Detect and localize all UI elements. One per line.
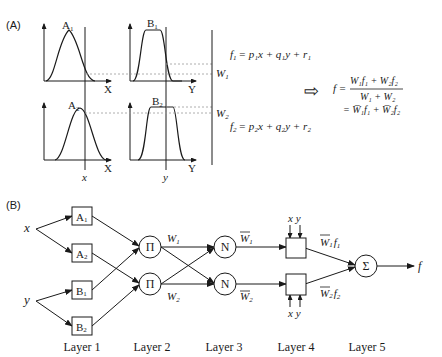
plot-a1-axis-label: X	[104, 83, 112, 95]
rule2-equation: f2= p₂x + q₂y + r₂	[230, 120, 311, 134]
anfis-figure: (A) A1 X B1 Y A2 X B2	[0, 0, 442, 357]
w1-label: W1	[216, 67, 229, 81]
panel-a: (A) A1 X B1 Y A2 X B2	[6, 17, 403, 183]
membership-curve-a1	[46, 30, 95, 81]
w2-label: W2	[216, 107, 229, 121]
output-f: f	[418, 259, 423, 273]
layer1-nodes: A1 A2 B1 B2	[72, 207, 92, 335]
plot-a1	[44, 24, 111, 81]
product-icon: Π	[146, 277, 155, 291]
layer4-top-inputs: x y	[287, 212, 301, 224]
layer-labels: Layer 1 Layer 2 Layer 3 Layer 4 Layer 5	[64, 340, 386, 354]
plot-a1-title: A1	[62, 19, 74, 33]
input-y: y	[22, 292, 30, 307]
implies-arrow-icon: ⇨	[304, 81, 319, 101]
normalize-icon: N	[221, 240, 230, 254]
layer-label-1: Layer 1	[64, 340, 101, 354]
consequent-node-1	[286, 238, 306, 258]
product-icon: Π	[146, 240, 155, 254]
layer3-nodes: N N W1 W2	[214, 232, 253, 304]
input-y-label: y	[162, 171, 168, 183]
plot-b1-axis-label: Y	[188, 83, 196, 95]
output-eq-line2: = W̅₁f₁ + W̅₂f₂	[343, 104, 401, 115]
w1-edge-label: W1	[167, 232, 180, 246]
w1f1-edge-label: W1f1	[320, 236, 340, 250]
membership-curve-b1	[133, 30, 182, 81]
output-eq-lhs: f =	[333, 82, 346, 94]
panel-b-label: (B)	[6, 199, 21, 211]
output-eq-denominator: W₁ + W₂	[360, 91, 396, 102]
layer-label-3: Layer 3	[206, 340, 243, 354]
w2-bar-edge-label: W2	[240, 290, 253, 304]
input-x: x	[23, 220, 30, 235]
sigma-icon: Σ	[363, 259, 370, 273]
w2f2-edge-label: W2f2	[320, 287, 341, 301]
w2-edge-label: W2	[167, 290, 180, 304]
panel-a-label: (A)	[6, 19, 21, 31]
plot-b2	[130, 103, 196, 160]
plot-b1	[130, 24, 196, 81]
layer4-bottom-inputs: x y	[287, 307, 301, 319]
plot-b2-axis-label: Y	[188, 162, 196, 174]
panel-b: (B) x y	[6, 199, 423, 354]
input-x-label: x	[81, 171, 87, 183]
layer-label-4: Layer 4	[278, 340, 315, 354]
layer-label-5: Layer 5	[349, 340, 386, 354]
normalize-icon: N	[221, 277, 230, 291]
layer2-nodes: Π Π W1 W2	[139, 232, 180, 304]
plot-a2-axis-label: X	[104, 162, 112, 174]
membership-curve-b2	[138, 107, 185, 160]
w1-bar-edge-label: W1	[240, 232, 253, 246]
plot-b1-title: B1	[147, 17, 158, 31]
layer4-nodes: x y x y W1f1 W2f2	[286, 212, 341, 319]
rule1-equation: f1= p₁x + q₁y + r₁	[230, 48, 311, 62]
plot-b2-title: B2	[152, 95, 163, 109]
consequent-node-2	[286, 274, 306, 295]
membership-curve-a2	[55, 108, 106, 160]
layer-label-2: Layer 2	[134, 340, 171, 354]
output-eq-numerator: W₁f₁ + W₂f₂	[350, 75, 398, 86]
plot-a2-title: A2	[68, 99, 80, 113]
